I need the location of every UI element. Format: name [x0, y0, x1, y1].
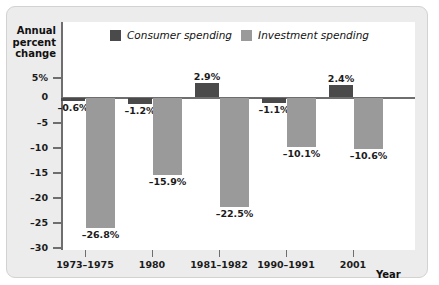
bar-value-label-consumer-2: 2.9%	[174, 71, 240, 82]
y-tick-label-n15: –15	[4, 167, 48, 178]
chart-legend: Consumer spending Investment spending	[110, 29, 369, 41]
bar-consumer-1	[128, 98, 152, 104]
bar-investment-0	[86, 98, 115, 228]
bar-consumer-0	[61, 98, 85, 101]
y-axis-title-line-3: change	[4, 48, 56, 60]
y-tick-7	[53, 247, 62, 249]
y-axis-title: Annual percent change	[4, 25, 56, 60]
y-tick-3	[53, 147, 62, 149]
bar-value-label-investment-2: –22.5%	[202, 208, 268, 219]
x-tick-1	[152, 250, 153, 257]
y-tick-label-n10: –10	[4, 142, 48, 153]
y-tick-0	[53, 77, 62, 79]
y-tick-label-n25: –25	[4, 217, 48, 228]
y-tick-6	[53, 222, 62, 224]
legend-swatch-investment-icon	[241, 30, 252, 41]
chart-figure: Annual percent change 5% 0 –5 –10 –15 –2…	[0, 0, 439, 285]
y-axis-title-line-1: Annual	[4, 25, 56, 37]
bar-value-label-investment-4: –10.6%	[336, 150, 402, 161]
bar-value-label-consumer-4: 2.4%	[308, 73, 374, 84]
x-tick-0	[85, 250, 86, 257]
y-axis-line	[61, 22, 63, 250]
bar-investment-2	[220, 98, 249, 207]
bar-value-label-investment-0: –26.8%	[68, 229, 134, 240]
bar-value-label-investment-1: –15.9%	[135, 176, 201, 187]
y-tick-label-5: 5%	[4, 72, 48, 83]
legend-label-investment: Investment spending	[258, 29, 369, 41]
x-tick-3	[286, 250, 287, 257]
bar-investment-1	[153, 98, 182, 175]
legend-item-consumer-spending: Consumer spending	[110, 29, 232, 41]
bar-value-label-investment-3: –10.1%	[269, 148, 335, 159]
y-tick-label-0: 0	[4, 91, 48, 102]
y-tick-4	[53, 172, 62, 174]
legend-item-investment-spending: Investment spending	[241, 29, 369, 41]
bar-consumer-4	[329, 85, 353, 97]
y-tick-label-n5: –5	[4, 117, 48, 128]
bar-consumer-3	[262, 98, 286, 103]
x-tick-2	[219, 250, 220, 257]
x-tick-4	[353, 250, 354, 257]
y-tick-label-n30: –30	[4, 242, 48, 253]
y-tick-2	[53, 122, 62, 124]
bar-investment-4	[354, 98, 383, 149]
bar-consumer-2	[195, 83, 219, 97]
y-tick-label-n20: –20	[4, 192, 48, 203]
y-axis-title-line-2: percent	[4, 37, 56, 49]
x-axis-title: Year	[376, 269, 401, 280]
y-tick-5	[53, 197, 62, 199]
legend-swatch-consumer-icon	[110, 30, 121, 41]
bar-investment-3	[287, 98, 316, 147]
legend-label-consumer: Consumer spending	[127, 29, 232, 41]
